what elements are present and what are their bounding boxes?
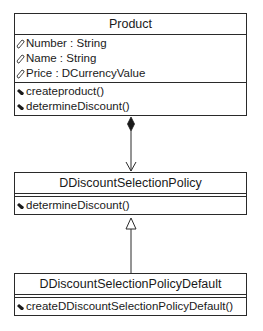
open-arrowhead-icon: [126, 162, 136, 171]
operation-icon: [16, 302, 25, 312]
operation-row: createDDiscountSelectionPolicyDefault(): [16, 299, 246, 314]
class-ddiscountselectionpolicy[interactable]: DDiscountSelectionPolicy determineDiscou…: [14, 172, 247, 215]
operation-row: determineDiscount(): [16, 99, 246, 114]
operations-compartment: createDDiscountSelectionPolicyDefault(): [15, 298, 246, 315]
operation-text: determineDiscount(): [26, 198, 130, 213]
operation-row: createproduct(): [16, 84, 246, 99]
class-ddiscountselectionpolicydefault[interactable]: DDiscountSelectionPolicyDefault createDD…: [14, 273, 247, 316]
attribute-row: Number : String: [16, 36, 246, 51]
hollow-triangle-icon: [126, 218, 136, 229]
attribute-text: Price : DCurrencyValue: [26, 66, 145, 81]
attributes-compartment: Number : String Name : String Price : DC…: [15, 35, 246, 83]
operation-icon: [16, 87, 25, 97]
attribute-icon: [16, 69, 25, 79]
composition-association: [126, 117, 136, 171]
attribute-row: Name : String: [16, 51, 246, 66]
attribute-row: Price : DCurrencyValue: [16, 66, 246, 81]
class-product[interactable]: Product Number : String Name : String Pr…: [14, 13, 247, 116]
attribute-icon: [16, 54, 25, 64]
generalization-association: [126, 218, 136, 273]
operation-icon: [16, 102, 25, 112]
operation-text: determineDiscount(): [26, 99, 130, 114]
operation-icon: [16, 201, 25, 211]
class-name: DDiscountSelectionPolicyDefault: [15, 274, 246, 295]
attribute-text: Number : String: [26, 36, 107, 51]
operation-text: createproduct(): [26, 84, 104, 99]
operation-text: createDDiscountSelectionPolicyDefault(): [26, 299, 233, 314]
operation-row: determineDiscount(): [16, 198, 246, 213]
attribute-icon: [16, 39, 25, 49]
operations-compartment: determineDiscount(): [15, 197, 246, 214]
operations-compartment: createproduct() determineDiscount(): [15, 83, 246, 115]
attribute-text: Name : String: [26, 51, 96, 66]
filled-diamond-icon: [128, 117, 135, 131]
class-name: Product: [15, 14, 246, 35]
class-name: DDiscountSelectionPolicy: [15, 173, 246, 194]
